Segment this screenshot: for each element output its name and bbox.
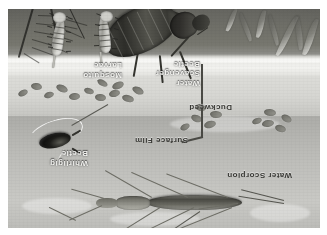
larva-segment bbox=[99, 40, 110, 42]
water-wash-blotch bbox=[250, 204, 310, 222]
surface-film-leader-vertical bbox=[201, 64, 203, 138]
label-duckweed: Duckweed bbox=[189, 103, 232, 113]
larva-segment bbox=[99, 34, 110, 36]
illustration-plate: Mosquito Larvae Water Scavenger Beetle W… bbox=[8, 9, 320, 228]
scorpion-thorax bbox=[116, 196, 150, 210]
label-surface-film: Surface Film bbox=[135, 136, 188, 146]
label-mosquito-larvae: Mosquito Larvae bbox=[83, 61, 122, 80]
label-water-scavenger-beetle: Water Scavenger Beetle bbox=[155, 60, 200, 89]
larva-head bbox=[100, 11, 113, 22]
larva-segment bbox=[100, 45, 111, 47]
larva-segment bbox=[53, 37, 64, 40]
larva-segment bbox=[99, 29, 110, 31]
larva-segment bbox=[54, 27, 65, 30]
larva-segment bbox=[52, 42, 63, 45]
label-whirligig-beetle: Whirligig Beetle bbox=[50, 149, 88, 168]
label-water-scorpion: Water Scorpion bbox=[227, 171, 292, 181]
illustration-figure: Mosquito Larvae Water Scavenger Beetle W… bbox=[0, 0, 327, 235]
larva-segment bbox=[51, 48, 62, 51]
larva-segment bbox=[54, 32, 65, 35]
larva-head bbox=[53, 12, 66, 23]
